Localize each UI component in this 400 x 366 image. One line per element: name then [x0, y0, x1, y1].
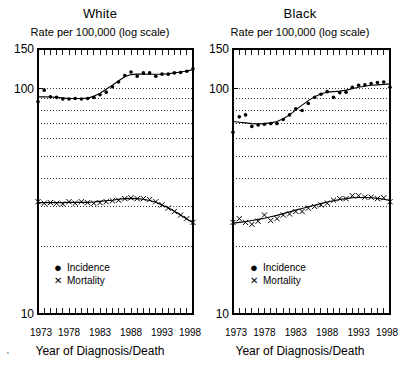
xtick-label-1993: 1993	[151, 326, 173, 339]
panel-title-black: Black	[200, 6, 400, 21]
xtick-labels-white: 197319781983198819931998	[0, 326, 200, 339]
xtick-label-1983: 1983	[285, 326, 307, 339]
legend-label-mortality: Mortality	[263, 275, 301, 287]
axis-note-black: Rate per 100,000 (log scale)	[200, 26, 400, 39]
panel-white: White Rate per 100,000 (log scale) 150 1…	[0, 0, 200, 366]
ytick-label-150-black: 150	[201, 43, 229, 55]
legend-label-incidence: Incidence	[263, 262, 306, 274]
panel-black: Black Rate per 100,000 (log scale) 150 1…	[200, 0, 400, 366]
xtick-label-1973: 1973	[225, 326, 247, 339]
xtick-label-1978: 1978	[58, 326, 80, 339]
xtick-label-1988: 1988	[316, 326, 338, 339]
xtick-label-1993: 1993	[347, 326, 369, 339]
xtick-labels-black: 197319781983198819931998	[200, 326, 400, 339]
ytick-label-100-black: 100	[201, 83, 229, 95]
incidence-marker-icon: ●	[52, 263, 64, 273]
corner-mark: '	[7, 350, 9, 360]
legend-row-incidence: ●Incidence	[52, 262, 110, 275]
mortality-marker-icon: ✕	[52, 275, 64, 287]
ytick-label-150-white: 150	[6, 43, 34, 55]
xaxis-label-black: Year of Diagnosis/Death	[200, 344, 400, 358]
figure-root: White Rate per 100,000 (log scale) 150 1…	[0, 0, 400, 366]
ytick-label-10-black: 10	[201, 308, 229, 320]
legend-white: ●Incidence ✕Mortality	[52, 262, 110, 288]
legend-row-incidence: ●Incidence	[248, 262, 306, 275]
ytick-label-10-white: 10	[6, 308, 34, 320]
axis-note-white: Rate per 100,000 (log scale)	[0, 26, 200, 39]
legend-label-mortality: Mortality	[67, 275, 105, 287]
xtick-label-1998: 1998	[376, 326, 398, 339]
xtick-label-1983: 1983	[89, 326, 111, 339]
panel-title-white: White	[0, 6, 200, 21]
legend-row-mortality: ✕Mortality	[52, 275, 110, 288]
mortality-marker-icon: ✕	[248, 275, 260, 287]
legend-row-mortality: ✕Mortality	[248, 275, 306, 288]
xtick-label-1973: 1973	[30, 326, 52, 339]
incidence-marker-icon: ●	[248, 263, 260, 273]
xtick-label-1988: 1988	[120, 326, 142, 339]
legend-label-incidence: Incidence	[67, 262, 110, 274]
xtick-label-1998: 1998	[179, 326, 201, 339]
ytick-label-100-white: 100	[6, 83, 34, 95]
legend-black: ●Incidence ✕Mortality	[248, 262, 306, 288]
plot-area-black	[200, 0, 400, 366]
xaxis-label-white: Year of Diagnosis/Death	[0, 344, 200, 358]
xtick-label-1978: 1978	[253, 326, 275, 339]
